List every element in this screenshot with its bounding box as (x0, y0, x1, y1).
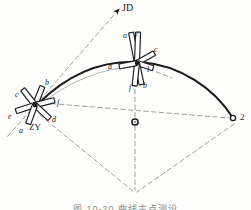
radius-line-right (137, 124, 234, 192)
circle-center-mark[interactable] (132, 119, 138, 125)
label-z-c: c (15, 91, 19, 99)
label-u-f: f (129, 84, 131, 92)
label-z-e: e (8, 113, 12, 121)
label-jd: JD (122, 3, 133, 13)
label-u-e: e (135, 30, 139, 38)
curve-inner-guide (43, 66, 141, 102)
label-z-f: f (57, 99, 59, 107)
label-z-d: d (52, 116, 56, 124)
label-pt-2: 2 (240, 113, 245, 122)
label-u-l: l (147, 66, 149, 74)
long-chord-zy-to-2 (44, 103, 229, 118)
zy-station-marker[interactable] (15, 85, 55, 124)
figure-caption: 图 10-20 曲线主点测设 (0, 202, 251, 210)
curve-end-point-2[interactable] (230, 115, 235, 120)
label-u-a: a (123, 32, 127, 40)
radius-line-left (40, 115, 134, 192)
label-u-b: b (143, 82, 147, 90)
curve-point-marker[interactable] (119, 32, 156, 86)
label-zy-text: ZY (29, 123, 41, 132)
label-z-a: a (19, 127, 23, 135)
tangent-line-to-jd (40, 9, 119, 100)
label-u-d: d (108, 63, 112, 71)
label-z-b: b (45, 79, 49, 87)
zy-center-dot (33, 103, 38, 108)
cp-center-dot (135, 61, 140, 66)
label-u-c: c (154, 46, 158, 54)
